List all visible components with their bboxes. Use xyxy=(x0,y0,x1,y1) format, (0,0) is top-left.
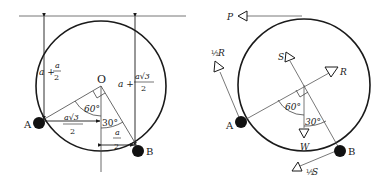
point-b-label-right: B xyxy=(348,146,355,157)
angle-60-label-right: 60° xyxy=(285,102,301,112)
height-b-num: a√3 xyxy=(135,72,150,81)
center-o-label: O xyxy=(97,73,106,86)
force-r-label: R xyxy=(339,67,347,77)
force-r-line xyxy=(241,73,329,122)
force-half-s-sym: S xyxy=(312,167,318,177)
force-p-label: P xyxy=(226,12,234,22)
angle-30-label-right: 30° xyxy=(305,117,321,127)
point-b-dot-right xyxy=(334,145,346,157)
right-angle-mark xyxy=(93,91,105,98)
force-w-label: W xyxy=(300,142,310,152)
force-w-arrowhead xyxy=(299,129,309,138)
right-angle-mark-right xyxy=(296,90,308,97)
left-figure: O A B 60° 30° a + a 2 a + a√3 2 a√3 2 a … xyxy=(19,16,186,172)
force-half-s-arrowhead xyxy=(292,162,302,171)
horiz-a-den: 2 xyxy=(70,127,75,136)
angle-30-label: 30° xyxy=(102,118,118,128)
force-s-arrowhead xyxy=(285,52,295,62)
force-half-r-sym: R xyxy=(217,48,225,58)
radius-ob xyxy=(101,86,137,146)
point-b-dot xyxy=(132,145,144,157)
force-r-arrowhead xyxy=(325,67,338,77)
horiz-b-den: 2 xyxy=(114,142,119,151)
force-p-arrowhead xyxy=(238,11,247,21)
height-a-num: a xyxy=(55,61,60,70)
point-a-dot-right xyxy=(235,116,247,128)
force-half-s-line xyxy=(300,151,336,166)
point-a-dot xyxy=(33,117,45,129)
height-a-den: 2 xyxy=(54,73,59,82)
angle-60-label: 60° xyxy=(84,104,100,114)
right-figure: P ½ R R S W ½ S 60° 30° A B xyxy=(211,11,370,177)
point-a-label: A xyxy=(23,119,32,130)
force-half-r-arrowhead xyxy=(214,61,224,72)
point-a-label-right: A xyxy=(225,120,234,131)
height-b-den: 2 xyxy=(141,84,146,93)
height-b-prefix: a + xyxy=(118,79,137,89)
point-b-label: B xyxy=(146,146,153,157)
diagram-canvas: O A B 60° 30° a + a 2 a + a√3 2 a√3 2 a … xyxy=(0,0,392,190)
force-s-label: S xyxy=(278,52,284,62)
horiz-a-num: a√3 xyxy=(64,113,79,122)
horiz-b-num: a xyxy=(115,128,120,137)
